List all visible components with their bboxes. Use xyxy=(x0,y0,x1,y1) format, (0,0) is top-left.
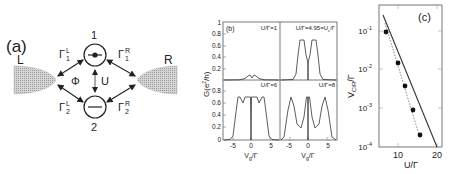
arrow-2L xyxy=(58,85,83,102)
gamma-1R-label: Γ R 1 xyxy=(118,47,130,62)
svg-text:Γ: Γ xyxy=(118,101,124,113)
quantum-dot-1 xyxy=(84,44,106,66)
lead-left xyxy=(14,66,56,94)
svg-text:0.2: 0.2 xyxy=(212,123,221,130)
subplot-label-uc: U/Γ=4.95=Uc/Γ xyxy=(296,25,336,33)
svg-text:0.6: 0.6 xyxy=(212,42,221,49)
arrow-1R xyxy=(107,60,135,76)
arrow-2R xyxy=(107,85,135,102)
svg-text:0.4: 0.4 xyxy=(212,53,221,60)
svg-text:0.6: 0.6 xyxy=(212,99,221,106)
svg-text:G(e2/h): G(e2/h) xyxy=(201,71,211,97)
panel-c-xticks: 10 20 xyxy=(393,150,442,160)
subplot-label-u6: U/Γ=6 xyxy=(261,82,278,88)
svg-text:R: R xyxy=(125,100,130,107)
panel-c-yticks: 10-1 10-2 10-3 10-4 xyxy=(358,25,372,152)
data-points xyxy=(384,30,423,138)
flux-label: Φ xyxy=(71,75,80,87)
svg-text:10-3: 10-3 xyxy=(358,102,372,113)
svg-text:R: R xyxy=(125,47,130,54)
svg-text:1: 1 xyxy=(125,55,129,62)
svg-text:2: 2 xyxy=(66,108,70,115)
panel-b-label: (b) xyxy=(226,25,235,33)
svg-text:0: 0 xyxy=(306,142,310,149)
svg-text:VCIR/Γ: VCIR/Γ xyxy=(346,74,357,98)
interaction-label: U xyxy=(101,75,109,87)
svg-text:0: 0 xyxy=(249,142,253,149)
curve-u6 xyxy=(224,97,279,140)
svg-text:1: 1 xyxy=(217,19,221,26)
panel-a-diagram: (a) L R 1 2 U Φ Γ L 1 xyxy=(6,29,177,133)
panel-c-chart: (c) 10-1 10-2 10-3 10-4 10 20 U/Γ VCIR/Γ xyxy=(346,5,442,170)
svg-text:Γ: Γ xyxy=(118,48,124,60)
gamma-2R-label: Γ R 2 xyxy=(118,100,130,115)
fit-line xyxy=(385,23,420,138)
curve-uc xyxy=(281,40,336,80)
panel-c-xlabel: U/Γ xyxy=(404,160,418,170)
svg-text:5: 5 xyxy=(269,142,273,149)
svg-text:0.4: 0.4 xyxy=(212,111,221,118)
panel-b-xlabels: Vg/Γ Vg/Γ xyxy=(244,152,314,161)
asymptotic-line xyxy=(383,15,437,147)
quantum-dot-2 xyxy=(84,96,106,118)
dot2-label: 2 xyxy=(91,121,97,133)
dot1-label: 1 xyxy=(91,29,97,41)
lead-left-label: L xyxy=(17,53,24,67)
lead-right-label: R xyxy=(164,53,173,67)
gamma-2L-label: Γ L 2 xyxy=(59,100,70,115)
svg-text:0.8: 0.8 xyxy=(212,87,221,94)
svg-text:10-1: 10-1 xyxy=(358,25,372,36)
subplot-label-u8: U/Γ=8 xyxy=(319,82,336,88)
arrow-1L xyxy=(58,60,83,76)
svg-text:Vg/Γ: Vg/Γ xyxy=(244,152,257,161)
svg-text:Γ: Γ xyxy=(59,101,65,113)
panel-c-label: (c) xyxy=(418,11,431,23)
curve-u8 xyxy=(281,97,336,140)
svg-text:5: 5 xyxy=(326,142,330,149)
svg-text:L: L xyxy=(66,47,70,54)
svg-text:10: 10 xyxy=(393,150,403,160)
panel-b-chart: G(e2/h) 1 0.8 0.6 0.4 0.2 0.8 0.6 0.4 0.… xyxy=(201,19,337,161)
panel-c-ylabel: VCIR/Γ xyxy=(346,74,357,98)
svg-text:1: 1 xyxy=(66,55,70,62)
svg-text:0: 0 xyxy=(217,136,221,143)
svg-text:10-4: 10-4 xyxy=(358,141,372,152)
panel-b-ylabel: G(e2/h) xyxy=(201,71,211,97)
panel-b-yticks-bottom: 0.8 0.6 0.4 0.2 0 xyxy=(212,87,221,143)
subplot-label-u1: U/Γ=1 xyxy=(261,25,278,31)
svg-text:Vg/Γ: Vg/Γ xyxy=(301,152,314,161)
svg-text:Γ: Γ xyxy=(59,48,65,60)
svg-text:0.8: 0.8 xyxy=(212,30,221,37)
svg-text:0.2: 0.2 xyxy=(212,65,221,72)
panel-b-xticks: -5 0 5 -5 0 5 xyxy=(230,142,330,149)
svg-text:L: L xyxy=(66,100,70,107)
svg-text:20: 20 xyxy=(432,150,442,160)
gamma-1L-label: Γ L 1 xyxy=(59,47,70,62)
svg-text:-5: -5 xyxy=(286,142,292,149)
curve-u1 xyxy=(224,75,279,80)
svg-text:-5: -5 xyxy=(230,142,236,149)
electron-icon xyxy=(92,52,97,57)
lead-right xyxy=(137,66,177,94)
panel-b-yticks-top: 1 0.8 0.6 0.4 0.2 xyxy=(212,19,221,72)
svg-text:2: 2 xyxy=(125,108,129,115)
svg-text:10-2: 10-2 xyxy=(358,63,372,74)
